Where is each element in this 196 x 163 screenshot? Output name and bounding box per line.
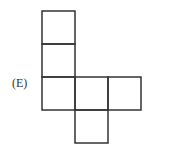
net-square-6 [75, 110, 108, 143]
net-square-1 [42, 11, 75, 44]
net-square-2 [42, 44, 75, 77]
net-square-5 [108, 77, 141, 110]
cube-net-diagram [0, 0, 196, 163]
net-square-3 [42, 77, 75, 110]
net-square-4 [75, 77, 108, 110]
